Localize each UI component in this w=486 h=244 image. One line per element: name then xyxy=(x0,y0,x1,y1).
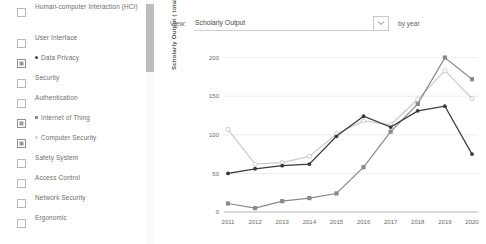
x-tick-label: 2013 xyxy=(276,219,290,225)
data-point-marker[interactable] xyxy=(389,125,393,129)
facet-item-0[interactable]: Human-computer Interaction (HCI) xyxy=(0,4,146,26)
x-tick-label: 2020 xyxy=(465,219,479,225)
x-tick-label: 2016 xyxy=(357,219,371,225)
facet-label-text: User Interface xyxy=(35,34,77,41)
checkbox-checked-icon[interactable] xyxy=(17,59,26,68)
checkbox-icon[interactable] xyxy=(17,199,26,208)
data-point-marker[interactable] xyxy=(253,167,257,171)
y-tick-label: 0 xyxy=(216,209,220,215)
data-point-marker[interactable] xyxy=(443,104,447,108)
facet-item-label: Data Privacy xyxy=(35,54,146,63)
facet-item-label: Security xyxy=(35,74,146,83)
facet-item-label: Authentication xyxy=(35,94,146,103)
facet-label-text: Safety System xyxy=(35,154,78,161)
data-point-marker[interactable] xyxy=(443,55,447,59)
data-point-marker[interactable] xyxy=(307,196,311,200)
x-tick-label: 2015 xyxy=(330,219,344,225)
data-point-marker[interactable] xyxy=(470,77,474,81)
series-marker-icon xyxy=(35,136,38,139)
facet-label-text: Ergonomic xyxy=(35,214,67,221)
facet-item-10[interactable]: Ergonomic xyxy=(0,215,146,237)
x-tick-label: 2019 xyxy=(438,219,452,225)
checkbox-icon[interactable] xyxy=(17,79,26,88)
data-point-marker[interactable] xyxy=(416,102,420,106)
facet-item-label: Ergonomic xyxy=(35,214,146,223)
data-point-marker[interactable] xyxy=(226,127,230,131)
facet-item-label: Computer Security xyxy=(35,134,146,143)
data-point-marker[interactable] xyxy=(307,154,311,158)
facet-label-text: Data Privacy xyxy=(41,54,79,61)
facet-label-text: Computer Security xyxy=(41,134,96,141)
checkbox-icon[interactable] xyxy=(17,219,26,228)
checkbox-icon[interactable] xyxy=(17,179,26,188)
x-tick-label: 2018 xyxy=(411,219,425,225)
data-point-marker[interactable] xyxy=(362,114,366,118)
scopus-topic-chart-widget: Human-computer Interaction (HCI)User Int… xyxy=(0,0,486,244)
facet-label-text: Access Control xyxy=(35,174,80,181)
data-point-marker[interactable] xyxy=(335,134,339,138)
facet-item-label: Safety System xyxy=(35,154,146,163)
facet-label-text: Network Security xyxy=(35,194,86,201)
facet-label-text: Internet of Thing xyxy=(41,114,90,121)
checkbox-icon[interactable] xyxy=(17,159,26,168)
data-point-marker[interactable] xyxy=(361,165,365,169)
facet-item-label: Human-computer Interaction (HCI) xyxy=(35,3,146,12)
data-point-marker[interactable] xyxy=(470,96,474,100)
series-line xyxy=(228,71,472,164)
series-marker-icon xyxy=(35,56,38,59)
facet-item-label: Access Control xyxy=(35,174,146,183)
facet-list-scrollbar-thumb[interactable] xyxy=(146,4,154,72)
x-tick-label: 2012 xyxy=(248,219,262,225)
facet-item-label: User Interface xyxy=(35,34,146,43)
x-tick-label: 2011 xyxy=(222,219,236,225)
checkbox-checked-icon[interactable] xyxy=(17,139,26,148)
x-tick-label: 2017 xyxy=(384,219,398,225)
data-point-marker[interactable] xyxy=(389,130,393,134)
series-marker-icon xyxy=(35,116,38,119)
facet-item-label: Network Security xyxy=(35,194,146,203)
x-tick-label: 2014 xyxy=(303,219,317,225)
data-point-marker[interactable] xyxy=(226,171,230,175)
facet-label-text: Authentication xyxy=(35,94,78,101)
y-tick-label: 200 xyxy=(209,55,220,61)
data-point-marker[interactable] xyxy=(470,152,474,156)
data-point-marker[interactable] xyxy=(280,199,284,203)
data-point-marker[interactable] xyxy=(416,109,420,113)
chart-panel: View: Scholarly Output by year Scholarly… xyxy=(160,0,486,244)
data-point-marker[interactable] xyxy=(226,201,230,205)
facet-label-text: Human-computer Interaction (HCI) xyxy=(35,3,138,10)
y-tick-label: 100 xyxy=(209,132,220,138)
y-tick-label: 150 xyxy=(209,93,220,99)
y-tick-label: 50 xyxy=(212,171,219,177)
data-point-marker[interactable] xyxy=(253,162,257,166)
topic-facet-list[interactable]: Human-computer Interaction (HCI)User Int… xyxy=(0,0,146,244)
checkbox-checked-icon[interactable] xyxy=(17,119,26,128)
facet-label-text: Security xyxy=(35,74,59,81)
checkbox-icon[interactable] xyxy=(17,8,26,17)
data-point-marker[interactable] xyxy=(443,69,447,73)
data-point-marker[interactable] xyxy=(253,206,257,210)
data-point-marker[interactable] xyxy=(307,162,311,166)
facet-item-label: Internet of Thing xyxy=(35,114,146,123)
checkbox-icon[interactable] xyxy=(17,39,26,48)
scholarly-output-line-chart: 0501001502002011201220132014201520162017… xyxy=(160,0,486,244)
data-point-marker[interactable] xyxy=(334,191,338,195)
data-point-marker[interactable] xyxy=(280,164,284,168)
data-point-marker[interactable] xyxy=(361,119,365,123)
checkbox-icon[interactable] xyxy=(17,99,26,108)
